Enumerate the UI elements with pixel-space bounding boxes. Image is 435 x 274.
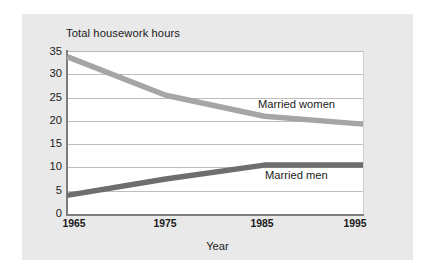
series-label-married-women: Married women bbox=[258, 98, 335, 110]
line-chart-figure: Total housework hours 35 30 25 20 15 10 … bbox=[0, 0, 435, 274]
line-series-married-women bbox=[67, 57, 363, 125]
series-label-married-men: Married men bbox=[265, 169, 328, 181]
series-lines bbox=[0, 0, 435, 274]
